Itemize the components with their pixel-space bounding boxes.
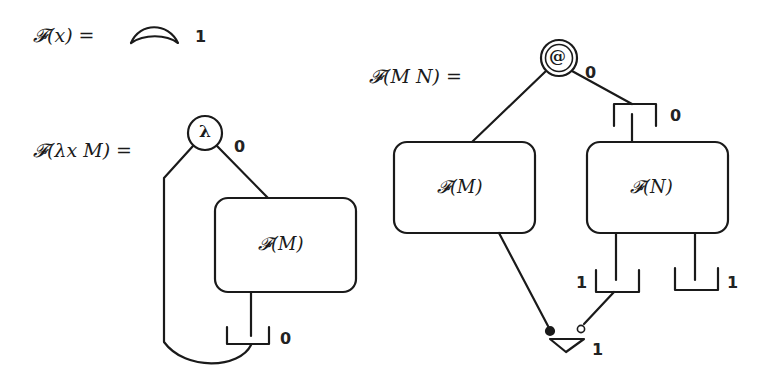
lambda-symbol: λ (199, 123, 211, 140)
argument-top-bracket-label: 0 (670, 108, 681, 124)
triangle-node-icon (550, 339, 584, 352)
argument-box-label: 𝓕(N) (630, 178, 673, 196)
variable-node-label: 1 (195, 29, 206, 45)
argument-top-bracket (614, 104, 656, 126)
application-equation-lhs: 𝓕(M N) = (369, 67, 462, 86)
argument-bottom-bracket-right (675, 268, 718, 290)
principal-port-dot (546, 327, 554, 335)
function-out-wire (499, 233, 548, 326)
crescent-node-icon (131, 27, 178, 43)
lambda-weakening-bracket (227, 327, 269, 344)
abstraction-equation-lhs: 𝓕(λx M) = (33, 141, 132, 160)
triangle-node-label: 1 (592, 342, 603, 358)
function-box-label: 𝓕(M) (437, 178, 482, 196)
lambda-node-label: 0 (234, 139, 245, 155)
lambda-bracket-label: 0 (280, 331, 291, 347)
auxiliary-port-dot (577, 325, 584, 332)
application-symbol: @ (549, 48, 566, 65)
argument-bottom-bracket-left-label: 1 (576, 275, 587, 291)
application-argument-wire (572, 71, 632, 104)
argument-bottom-bracket-left (596, 270, 639, 292)
bracket-to-triangle-wire (584, 292, 614, 324)
application-node-label: 0 (585, 65, 596, 81)
lambda-body-box-label: 𝓕(M) (258, 235, 303, 253)
application-function-wire (472, 71, 546, 142)
argument-bottom-bracket-right-label: 1 (727, 275, 738, 291)
variable-equation-lhs: 𝓕(x) = (33, 26, 95, 45)
